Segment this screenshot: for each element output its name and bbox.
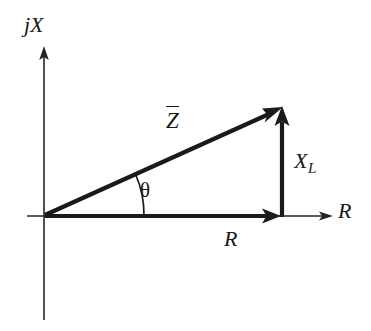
impedance-vector-label: Z [166, 106, 179, 132]
resistance-vector-label: R [224, 228, 237, 250]
reactance-vector-label-base: X [294, 148, 307, 173]
resistance-vector [45, 209, 281, 224]
vertical-axis-label: jX [24, 14, 44, 36]
impedance-vector-label-text: Z [166, 106, 179, 132]
reactance-vector-label-subscript: L [307, 160, 316, 176]
impedance-vector-line [45, 115, 268, 216]
horizontal-axis-label: R [338, 200, 351, 222]
reactance-vector [275, 106, 290, 217]
impedance-vector [45, 107, 283, 215]
angle-label: θ [140, 180, 150, 201]
impedance-phasor-figure: jX R Z R XL θ [0, 0, 371, 331]
vertical-axis-jx [39, 46, 49, 320]
reactance-vector-label: XL [294, 150, 316, 176]
